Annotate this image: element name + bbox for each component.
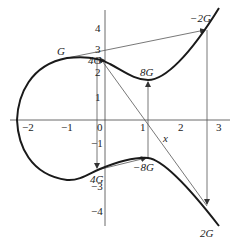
- y-tick-neg4: −4: [91, 205, 103, 217]
- label-2g: 2G: [200, 227, 214, 239]
- y-tick-2: 2: [95, 66, 101, 78]
- x-tick-0: 0: [97, 121, 103, 133]
- y-tick-1: 1: [95, 91, 101, 103]
- curve-lower-branch: [17, 120, 219, 226]
- y-tick-4: 4: [95, 22, 101, 34]
- x-tick-3: 3: [216, 121, 222, 133]
- curve-upper-branch: [17, 8, 219, 120]
- x-tick-neg2: −2: [22, 121, 34, 133]
- x-axis-label: x: [162, 132, 168, 144]
- x-tick-neg1: −1: [61, 121, 73, 133]
- label-neg2g: −2G: [190, 12, 211, 24]
- x-tick-2: 2: [178, 121, 184, 133]
- y-tick-neg1: −1: [91, 137, 103, 149]
- label-neg8g: −8G: [133, 161, 154, 173]
- label-8g: 8G: [140, 66, 154, 78]
- label-4g-top: 4G: [88, 54, 102, 66]
- elliptic-curve-diagram: −2 −1 0 1 2 3 x 4 3 2 1 −1 −3 −4 G 4G 8G…: [0, 0, 230, 243]
- diagram-canvas: −2 −1 0 1 2 3 x 4 3 2 1 −1 −3 −4 G 4G 8G…: [0, 0, 230, 243]
- label-g: G: [57, 45, 65, 57]
- label-4g-bottom: 4G: [90, 173, 104, 185]
- x-tick-1: 1: [140, 121, 146, 133]
